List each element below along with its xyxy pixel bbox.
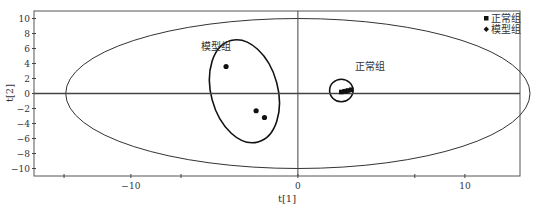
y-tick-label: 4 <box>24 59 30 69</box>
y-tick-label: −4 <box>17 119 31 129</box>
x-tick-label: 0 <box>295 181 301 191</box>
x-tick-label: 10 <box>459 181 471 191</box>
group-label-model: 模型组 <box>201 40 231 52</box>
group-label-normal: 正常组 <box>355 60 385 72</box>
legend-label-model: 模型组 <box>491 23 521 35</box>
y-tick-label: −2 <box>17 104 30 114</box>
legend-marker-normal <box>484 16 489 21</box>
legend-marker-model <box>484 27 489 32</box>
data-point-model <box>223 64 228 69</box>
legend: 正常组 模型组 <box>484 12 521 35</box>
data-point-normal <box>342 89 347 94</box>
x-axis-title: t[1] <box>278 193 296 204</box>
y-axis-title: t[2] <box>4 84 15 102</box>
y-tick-label: 0 <box>24 89 30 99</box>
data-point-model <box>262 115 267 120</box>
y-tick-label: 2 <box>24 74 30 84</box>
y-tick-label: 10 <box>19 14 31 24</box>
y-tick-label: 6 <box>24 44 30 54</box>
data-point-normal <box>349 87 354 92</box>
y-tick-label: 8 <box>24 29 30 39</box>
y-tick-label: −8 <box>17 149 31 159</box>
x-tick-label: −10 <box>121 181 140 191</box>
pca-score-plot: −10−8−6−4−20246810−10010 t[1] t[2] 模型组 正… <box>0 0 544 210</box>
legend-label-normal: 正常组 <box>491 12 521 24</box>
y-tick-label: −10 <box>11 164 30 174</box>
y-tick-label: −6 <box>17 134 31 144</box>
data-point-model <box>254 108 259 113</box>
